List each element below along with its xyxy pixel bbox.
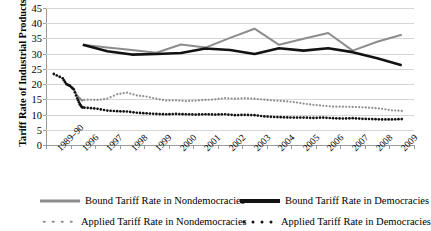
legend-label: Applied Tariff Rate in Nondemocracies (81, 216, 247, 227)
x-tick-mark-15 (414, 145, 415, 149)
x-tick-mark-8 (242, 145, 243, 149)
series-dot (283, 116, 286, 119)
series-dot (286, 116, 289, 119)
series-dot (342, 106, 344, 108)
legend-swatch-dots-gray (40, 216, 76, 227)
legend-label: Applied Tariff Rate in Democracies (281, 216, 431, 227)
series-dot (217, 113, 220, 116)
series-dot (90, 107, 93, 110)
series-dot (191, 113, 194, 116)
series-dot (145, 95, 147, 97)
plot-area: 051015202530354045 (46, 8, 414, 145)
series-dot (345, 117, 348, 120)
series-dot (309, 116, 312, 119)
series-dot (204, 113, 207, 116)
series-dot (388, 109, 390, 111)
series-dot (303, 103, 305, 105)
y-tick-label-35: 35 (32, 33, 43, 44)
x-tick-mark-12 (340, 145, 341, 149)
series-dot (338, 106, 340, 108)
series-dot (312, 104, 314, 106)
x-tick-mark-2 (95, 145, 96, 149)
series-dot (329, 105, 331, 107)
series-dot (171, 113, 174, 116)
series-dot (109, 109, 112, 112)
series-dot (81, 99, 83, 101)
series-dot (172, 99, 174, 101)
series-dot (119, 110, 122, 113)
series-dot (214, 98, 216, 100)
series-2 (53, 72, 403, 112)
series-dot (286, 100, 288, 102)
series-dot (361, 106, 363, 108)
series-dot (309, 103, 311, 105)
series-dot (371, 107, 373, 109)
series-dot (332, 117, 335, 120)
legend-item-bound-nondemocracies: Bound Tariff Rate in Nondemocracies (40, 194, 245, 206)
series-0 (83, 29, 402, 53)
series-dot (319, 104, 321, 106)
series-dot (328, 117, 331, 120)
series-dot (237, 97, 239, 99)
series-dot (342, 117, 345, 120)
series-dot (400, 118, 403, 121)
series-dot (243, 114, 246, 117)
series-dot (247, 114, 250, 117)
series-dot (240, 97, 242, 99)
series-dot (391, 118, 394, 121)
y-tick-label-30: 30 (32, 48, 43, 59)
series-dot (361, 117, 364, 120)
series-dot (74, 91, 77, 94)
series-dot (332, 106, 334, 108)
series-dot (58, 76, 61, 79)
series-dot (93, 107, 96, 110)
series-dot (234, 114, 237, 117)
series-dot (276, 100, 278, 102)
series-dot (135, 111, 138, 114)
series-dot (103, 109, 106, 112)
series-dot (201, 99, 203, 101)
series-dot (142, 112, 145, 115)
legend-item-applied-democracies: Applied Tariff Rate in Democracies (240, 215, 431, 227)
legend-swatch-line-gray (40, 195, 80, 206)
y-tick-label-20: 20 (32, 79, 43, 90)
series-dot (126, 92, 128, 94)
series-3 (53, 73, 404, 121)
series-dot (338, 117, 341, 120)
series-dot (211, 113, 214, 116)
series-dot (113, 110, 116, 113)
series-dot (162, 99, 164, 101)
x-tick-mark-9 (267, 145, 268, 149)
x-tick-mark-3 (120, 145, 121, 149)
series-dot (381, 108, 383, 110)
series-dot (293, 101, 295, 103)
series-dot (267, 99, 269, 101)
series-dot (113, 95, 115, 97)
series-dot (322, 105, 324, 107)
series-dot (106, 98, 108, 100)
series-dot (364, 118, 367, 121)
y-tick-label-25: 25 (32, 63, 43, 74)
series-dot (240, 114, 243, 117)
series-dot (129, 111, 132, 114)
series-dot (123, 92, 125, 94)
legend-swatch-line-black (240, 195, 280, 206)
series-dot (191, 100, 193, 102)
series-dot (178, 99, 180, 101)
series-dot (253, 98, 255, 100)
series-dot (116, 93, 118, 95)
series-dot (165, 99, 167, 101)
series-dot (273, 99, 275, 101)
y-tick-label-40: 40 (32, 18, 43, 29)
series-dot (260, 115, 263, 118)
series-layer (46, 8, 414, 145)
series-dot (280, 100, 282, 102)
series-dot (86, 107, 89, 110)
x-tick-mark-1 (71, 145, 72, 149)
series-dot (394, 118, 397, 121)
series-dot (168, 99, 170, 101)
series-dot (270, 99, 272, 101)
series-dot (394, 109, 396, 111)
series-dot (374, 118, 377, 121)
y-tick-label-10: 10 (32, 109, 43, 120)
